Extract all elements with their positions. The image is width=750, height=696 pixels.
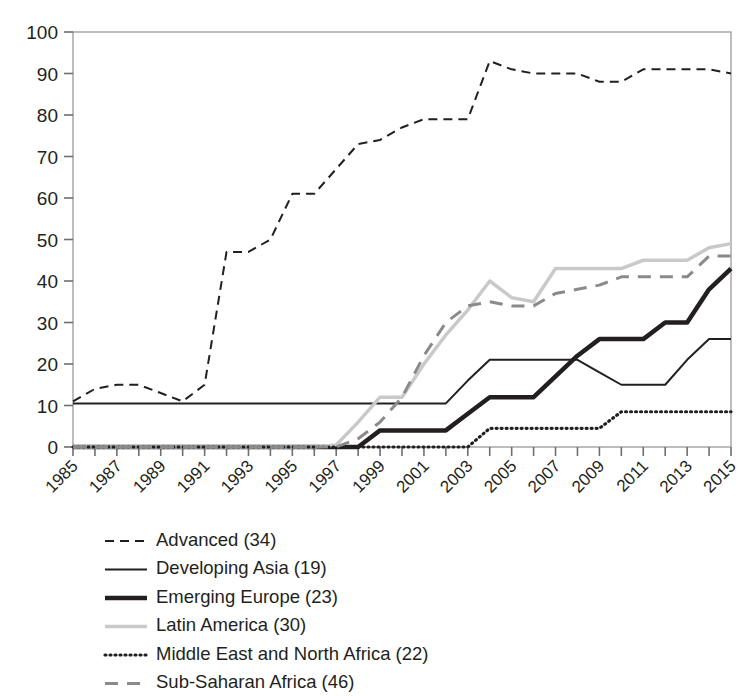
y-axis-tick-label: 90 [37,64,58,85]
series-line-1 [73,339,731,403]
chart-container: 0102030405060708090100 19851987198919911… [0,0,750,696]
chart-axes [64,32,731,456]
x-axis-tick-label: 1991 [173,456,213,496]
x-axis-tick-label: 2011 [613,456,652,495]
x-axis-tick-label: 2009 [568,456,608,496]
x-axis-tick-label: 1993 [217,456,257,496]
series-line-0 [73,61,731,401]
line-chart-svg: 0102030405060708090100 19851987198919911… [0,0,750,696]
x-axis-tick-label: 2005 [480,456,520,496]
x-axis-tick-label: 2013 [656,456,696,496]
chart-series [73,61,731,447]
series-line-5 [73,256,731,447]
y-axis-tick-label: 60 [37,188,58,209]
legend-label-4[interactable]: Middle East and North Africa (22) [156,643,429,664]
y-axis-tick-label: 70 [37,147,58,168]
x-axis-tick-label: 1995 [261,456,301,496]
x-axis-tick-label: 2007 [524,456,564,496]
series-line-3 [73,244,731,447]
x-axis-tick-label: 1987 [86,456,126,496]
y-axis-tick-label: 50 [37,230,58,251]
y-axis-tick-label: 20 [37,354,58,375]
y-axis-tick-label: 30 [37,313,58,334]
x-axis-tick-label: 1997 [305,456,345,496]
legend-label-0[interactable]: Advanced (34) [156,529,276,550]
x-axis-tick-label: 1999 [349,456,389,496]
x-axis-tick-label: 1985 [42,456,82,496]
series-line-2 [73,269,731,447]
y-axis-tick-label: 10 [37,396,58,417]
legend-label-5[interactable]: Sub-Saharan Africa (46) [156,671,354,692]
x-axis-tick-labels: 1985198719891991199319951997199920012003… [42,456,740,496]
legend-label-1[interactable]: Developing Asia (19) [156,557,327,578]
chart-legend: Advanced (34)Developing Asia (19)Emergin… [105,529,429,693]
x-axis-tick-label: 2001 [393,456,433,496]
legend-label-3[interactable]: Latin America (30) [156,614,306,635]
y-axis-tick-label: 40 [37,271,58,292]
x-axis-tick-label: 1989 [129,456,169,496]
y-axis-tick-label: 80 [37,105,58,126]
legend-label-2[interactable]: Emerging Europe (23) [156,586,338,607]
y-axis-tick-label: 0 [47,437,58,458]
x-axis-tick-label: 2015 [700,456,740,496]
y-axis-tick-labels: 0102030405060708090100 [26,22,58,458]
y-axis-tick-label: 100 [26,22,58,43]
x-axis-tick-label: 2003 [436,456,476,496]
